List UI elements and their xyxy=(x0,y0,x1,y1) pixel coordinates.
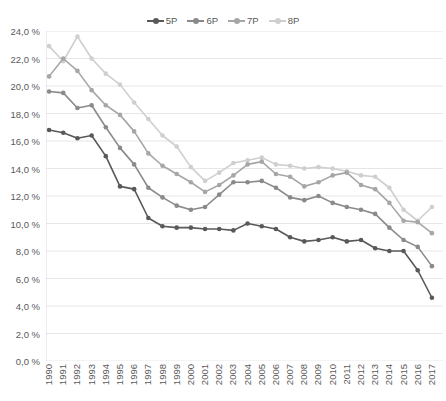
legend-swatch-icon xyxy=(269,20,286,22)
legend-item-5p[interactable]: 5P xyxy=(147,15,178,26)
data-point xyxy=(302,198,307,203)
data-point xyxy=(104,103,109,108)
data-point xyxy=(160,133,165,138)
data-point xyxy=(302,184,307,189)
x-axis-tick-label: 1999 xyxy=(172,364,182,385)
data-point xyxy=(373,212,378,217)
x-axis-tick-label: 2015 xyxy=(399,364,409,385)
x-axis-tick-label: 2008 xyxy=(299,364,309,385)
data-point xyxy=(75,34,80,39)
data-point xyxy=(61,130,66,135)
legend-label: 8P xyxy=(288,15,300,26)
data-point xyxy=(288,163,293,168)
x-axis-tick-label: 2014 xyxy=(384,364,394,385)
legend-label: 5P xyxy=(166,15,178,26)
line-chart: 5P6P7P8P 0,0 %2,0 %4,0 %6,0 %8,0 %10,0 %… xyxy=(0,0,446,401)
y-axis-tick-label: 18,0 % xyxy=(10,108,40,119)
data-point xyxy=(132,100,137,105)
x-axis-tick-label: 2001 xyxy=(200,364,210,385)
plot-svg xyxy=(46,31,443,361)
x-axis-tick-label: 2005 xyxy=(257,364,267,385)
y-axis-tick-label: 16,0 % xyxy=(10,136,40,147)
legend-label: 6P xyxy=(206,15,218,26)
data-point xyxy=(316,238,321,243)
data-point xyxy=(359,207,364,212)
data-point xyxy=(104,71,109,76)
data-point xyxy=(288,174,293,179)
data-point xyxy=(189,165,194,170)
y-axis-tick-label: 0,0 % xyxy=(16,356,40,367)
data-point xyxy=(316,165,321,170)
data-point xyxy=(132,187,137,192)
data-point xyxy=(132,162,137,167)
data-point xyxy=(89,133,94,138)
data-point xyxy=(245,162,250,167)
data-point xyxy=(203,205,208,210)
data-point xyxy=(160,195,165,200)
data-point xyxy=(245,180,250,185)
data-point xyxy=(160,224,165,229)
data-point xyxy=(104,125,109,130)
legend-item-7p[interactable]: 7P xyxy=(228,15,259,26)
data-point xyxy=(330,201,335,206)
data-point xyxy=(274,227,279,232)
data-point xyxy=(174,172,179,177)
data-point xyxy=(401,249,406,254)
legend-swatch-icon xyxy=(228,20,245,22)
data-point xyxy=(415,220,420,225)
data-point xyxy=(401,238,406,243)
data-point xyxy=(430,205,435,210)
data-point xyxy=(231,161,236,166)
data-point xyxy=(118,82,123,87)
legend-swatch-icon xyxy=(187,20,204,22)
data-point xyxy=(174,225,179,230)
x-axis-tick-label: 2009 xyxy=(313,364,323,385)
data-point xyxy=(373,174,378,179)
data-point xyxy=(118,184,123,189)
data-point xyxy=(61,91,66,96)
legend-swatch-icon xyxy=(147,20,164,22)
x-axis-tick-label: 2006 xyxy=(271,364,281,385)
x-axis-tick-label: 2017 xyxy=(427,364,437,385)
x-axis-tick-label: 2011 xyxy=(342,364,352,384)
data-point xyxy=(231,180,236,185)
data-point xyxy=(359,173,364,178)
data-point xyxy=(118,113,123,118)
data-point xyxy=(203,190,208,195)
data-point xyxy=(189,225,194,230)
legend-item-8p[interactable]: 8P xyxy=(269,15,300,26)
data-point xyxy=(359,238,364,243)
data-point xyxy=(47,44,52,49)
data-point xyxy=(47,74,52,79)
legend-item-6p[interactable]: 6P xyxy=(187,15,218,26)
y-axis-tick-label: 10,0 % xyxy=(10,218,40,229)
data-point xyxy=(245,221,250,226)
data-point xyxy=(217,227,222,232)
data-point xyxy=(288,235,293,240)
y-axis-tick-label: 14,0 % xyxy=(10,163,40,174)
data-point xyxy=(203,227,208,232)
series-line xyxy=(49,59,432,234)
x-axis-tick-label: 2016 xyxy=(413,364,423,385)
data-point xyxy=(132,129,137,134)
data-point xyxy=(146,151,151,156)
x-axis-tick-label: 2007 xyxy=(285,364,295,385)
data-point xyxy=(75,106,80,111)
x-axis-tick-label: 1993 xyxy=(87,364,97,385)
data-point xyxy=(118,146,123,151)
data-point xyxy=(146,216,151,221)
x-axis-tick-label: 1992 xyxy=(72,364,82,385)
data-point xyxy=(274,172,279,177)
data-point xyxy=(274,185,279,190)
y-axis-tick-label: 8,0 % xyxy=(16,246,40,257)
x-axis-tick-label: 2013 xyxy=(370,364,380,385)
data-point xyxy=(373,187,378,192)
y-axis-tick-label: 12,0 % xyxy=(10,191,40,202)
y-axis-tick-label: 4,0 % xyxy=(16,301,40,312)
data-point xyxy=(330,173,335,178)
data-point xyxy=(387,201,392,206)
chart-title xyxy=(0,0,446,4)
x-axis-tick-label: 1998 xyxy=(158,364,168,385)
data-point xyxy=(330,235,335,240)
y-axis-tick-label: 22,0 % xyxy=(10,53,40,64)
